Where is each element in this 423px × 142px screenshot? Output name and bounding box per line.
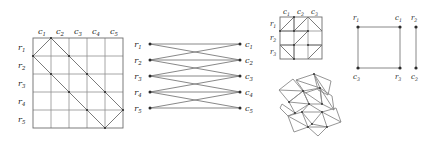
graph-label-c3: c3 xyxy=(353,73,360,82)
panel-bipartite: r1 r2 r3 r4 r5 c1 c2 c3 c4 c5 xyxy=(134,39,253,114)
panel-grid-3x3: c1 c2 c3 r1 r2 r3 xyxy=(270,8,322,60)
panel1-diagonal-path xyxy=(33,38,123,128)
panel3-row-labels: r1 r2 r3 xyxy=(270,20,276,57)
bipartite-label-r2: r2 xyxy=(134,55,142,66)
graph-label-r1: r1 xyxy=(353,14,359,23)
small-col-label-c1: c1 xyxy=(283,8,290,17)
panel1-path-vertices xyxy=(32,37,124,129)
bipartite-label-c1: c1 xyxy=(245,39,253,50)
col-label-c3: c3 xyxy=(74,26,83,37)
graph-label-c1: c1 xyxy=(395,14,402,23)
small-row-label-r3: r3 xyxy=(270,48,276,57)
small-row-label-r1: r1 xyxy=(270,20,276,29)
panel3-column-labels: c1 c2 c3 xyxy=(283,8,318,17)
panel4-labels: r1 c1 r2 c3 r3 c2 xyxy=(353,14,418,82)
mesh-cells xyxy=(279,74,341,136)
bipartite-label-c2: c2 xyxy=(245,55,254,66)
panel1-row-labels: r1 r2 r3 r4 r5 xyxy=(18,42,26,125)
bipartite-edges xyxy=(150,44,240,108)
small-col-label-c2: c2 xyxy=(297,8,304,17)
bipartite-left-labels: r1 r2 r3 r4 r5 xyxy=(134,39,142,114)
panel-grid-5x5: c1 c2 c3 c4 c5 r1 r2 r3 r4 r5 xyxy=(18,26,124,129)
row-label-r5: r5 xyxy=(18,114,26,125)
bipartite-label-r5: r5 xyxy=(134,103,142,114)
bipartite-label-r3: r3 xyxy=(134,71,142,82)
bipartite-label-r4: r4 xyxy=(134,87,142,98)
bipartite-right-labels: c1 c2 c3 c4 c5 xyxy=(245,39,254,114)
panel1-column-labels: c1 c2 c3 c4 c5 xyxy=(38,26,119,37)
panel4-nodes xyxy=(356,25,417,69)
col-label-c1: c1 xyxy=(38,26,46,37)
row-label-r1: r1 xyxy=(18,42,25,53)
row-label-r4: r4 xyxy=(18,96,26,107)
panel-mesh xyxy=(279,73,341,136)
panel3-diagonals xyxy=(280,17,322,59)
panel-square-graph: r1 c1 r2 c3 r3 c2 xyxy=(353,14,418,82)
bipartite-right-nodes xyxy=(239,43,242,110)
col-label-c2: c2 xyxy=(56,26,65,37)
col-label-c4: c4 xyxy=(92,26,101,37)
bipartite-label-c5: c5 xyxy=(245,103,254,114)
figure-container: c1 c2 c3 c4 c5 r1 r2 r3 r4 r5 xyxy=(0,0,423,142)
panel4-edges xyxy=(358,27,416,68)
bipartite-label-r1: r1 xyxy=(134,39,141,50)
graph-label-c2: c2 xyxy=(411,73,418,82)
bipartite-label-c4: c4 xyxy=(245,87,254,98)
figure-canvas: c1 c2 c3 c4 c5 r1 r2 r3 r4 r5 xyxy=(0,0,423,142)
bipartite-left-nodes xyxy=(149,43,152,110)
small-col-label-c3: c3 xyxy=(311,8,318,17)
panel1-grid-border xyxy=(33,38,123,128)
col-label-c5: c5 xyxy=(110,26,119,37)
row-label-r3: r3 xyxy=(18,78,26,89)
small-row-label-r2: r2 xyxy=(270,34,276,43)
graph-label-r2: r2 xyxy=(411,14,417,23)
row-label-r2: r2 xyxy=(18,60,26,71)
graph-label-r3: r3 xyxy=(395,73,401,82)
bipartite-label-c3: c3 xyxy=(245,71,254,82)
panel1-grid-lines xyxy=(33,38,123,128)
